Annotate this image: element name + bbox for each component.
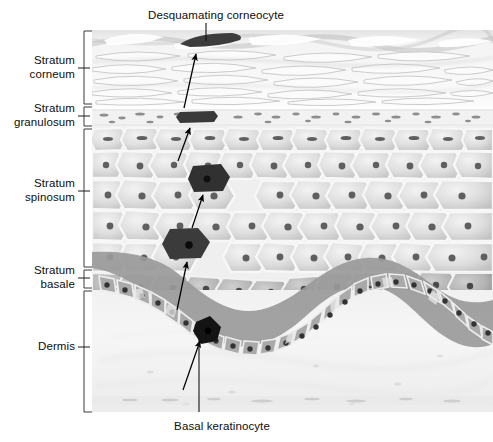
layer-label-stratum-corneum: Stratum corneum xyxy=(0,54,75,81)
callout-label-basal-keratinocyte: Basal keratinocyte xyxy=(122,420,322,434)
layer-label-stratum-basale: Stratum basale xyxy=(0,264,75,291)
epidermis-figure: Desquamating corneocyte Basal keratinocy… xyxy=(0,0,493,442)
marked-cell-corneocyte-granular xyxy=(176,111,218,123)
stratum-granulosum-region xyxy=(92,106,493,127)
stratum-corneum-region xyxy=(92,27,493,106)
callout-label-desquamating-corneocyte: Desquamating corneocyte xyxy=(116,9,316,23)
bracket-dermis xyxy=(84,291,92,412)
layer-label-stratum-spinosum: Stratum spinosum xyxy=(0,177,75,204)
tissue-panel xyxy=(90,27,493,412)
layer-bracket-group xyxy=(78,31,92,412)
bracket-stratum-basale xyxy=(84,270,92,288)
bracket-stratum-spinosum xyxy=(84,129,92,267)
layer-label-stratum-granulosum: Stratum granulosum xyxy=(0,102,75,129)
layer-label-dermis: Dermis xyxy=(0,340,75,354)
